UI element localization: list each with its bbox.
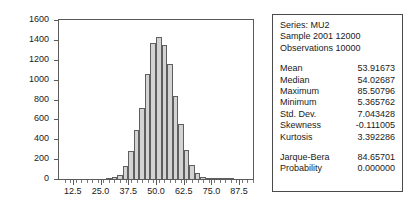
- x-axis-minor-tick: [148, 180, 149, 183]
- x-axis-tick-label: 62.5: [175, 186, 193, 196]
- x-axis-minor-tick: [242, 180, 243, 183]
- x-axis-minor-tick: [164, 180, 165, 183]
- stat-label: Median: [280, 75, 310, 86]
- stat-value: 5.365762: [357, 97, 395, 108]
- x-axis-minor-tick: [181, 180, 182, 183]
- x-axis-minor-tick: [159, 180, 160, 183]
- x-axis-minor-tick: [65, 180, 66, 183]
- x-axis-minor-tick: [120, 180, 121, 183]
- x-axis-minor-tick: [214, 180, 215, 183]
- x-axis-major-tick: [73, 180, 74, 185]
- stat-value: 53.91673: [357, 63, 395, 74]
- x-axis-minor-tick: [114, 180, 115, 183]
- x-axis-minor-tick: [209, 180, 210, 183]
- stats-spacer-two: [280, 143, 395, 152]
- stat-row: Maximum85.50796: [280, 86, 395, 97]
- x-axis-minor-tick: [137, 180, 138, 183]
- x-axis-minor-tick: [109, 180, 110, 183]
- stat-row: Mean53.91673: [280, 63, 395, 74]
- x-axis-minor-tick: [126, 180, 127, 183]
- x-axis-minor-tick: [253, 180, 254, 183]
- stat-label: Std. Dev.: [280, 109, 316, 120]
- x-axis-tick-label: 87.5: [230, 186, 248, 196]
- histogram-figure: 02004006008001000120014001600 12.525.037…: [0, 0, 410, 207]
- stat-row: Minimum5.365762: [280, 97, 395, 108]
- x-axis-minor-tick: [70, 180, 71, 183]
- stat-row: Std. Dev.7.043428: [280, 109, 395, 120]
- stat-label: Minimum: [280, 97, 317, 108]
- stat-value: 0.000000: [357, 163, 395, 174]
- observations-label: Observations 10000: [280, 43, 395, 54]
- x-axis: 12.525.037.550.062.575.087.5: [0, 0, 262, 207]
- stat-label: Kurtosis: [280, 132, 313, 143]
- x-axis-minor-tick: [175, 180, 176, 183]
- x-axis-major-tick: [239, 180, 240, 185]
- stat-test-row: Probability0.000000: [280, 163, 395, 174]
- x-axis-minor-tick: [192, 180, 193, 183]
- x-axis-minor-tick: [92, 180, 93, 183]
- stat-label: Skewness: [280, 120, 321, 131]
- x-axis-major-tick: [101, 180, 102, 185]
- x-axis-major-tick: [156, 180, 157, 185]
- x-axis-minor-tick: [87, 180, 88, 183]
- x-axis-minor-tick: [76, 180, 77, 183]
- normality-test-list: Jarque-Bera84.65701Probability0.000000: [280, 152, 395, 175]
- x-axis-minor-tick: [170, 180, 171, 183]
- stat-value: -0.111005: [356, 120, 395, 131]
- stat-row: Median54.02687: [280, 75, 395, 86]
- x-axis-minor-tick: [225, 180, 226, 183]
- stat-row: Skewness-0.111005: [280, 120, 395, 131]
- x-axis-minor-tick: [220, 180, 221, 183]
- chart-area: 02004006008001000120014001600 12.525.037…: [0, 0, 262, 207]
- x-axis-tick-label: 12.5: [64, 186, 82, 196]
- stat-value: 85.50796: [357, 86, 395, 97]
- x-axis-tick-label: 25.0: [92, 186, 110, 196]
- stat-label: Mean: [280, 63, 303, 74]
- x-axis-minor-tick: [186, 180, 187, 183]
- series-label: Series: MU2: [280, 20, 395, 31]
- sample-label: Sample 2001 12000: [280, 31, 395, 42]
- x-axis-minor-tick: [153, 180, 154, 183]
- stat-value: 84.65701: [357, 152, 395, 163]
- stat-test-row: Jarque-Bera84.65701: [280, 152, 395, 163]
- x-axis-major-tick: [211, 180, 212, 185]
- x-axis-minor-tick: [203, 180, 204, 183]
- x-axis-minor-tick: [247, 180, 248, 183]
- statistics-panel: Series: MU2 Sample 2001 12000 Observatio…: [272, 14, 403, 192]
- stat-value: 54.02687: [357, 75, 395, 86]
- stat-label: Probability: [280, 163, 322, 174]
- stat-value: 7.043428: [357, 109, 395, 120]
- descriptive-stats-list: Mean53.91673Median54.02687Maximum85.5079…: [280, 63, 395, 143]
- stat-value: 3.392286: [357, 132, 395, 143]
- x-axis-major-tick: [128, 180, 129, 185]
- stat-row: Kurtosis3.392286: [280, 132, 395, 143]
- x-axis-minor-tick: [81, 180, 82, 183]
- x-axis-minor-tick: [198, 180, 199, 183]
- x-axis-minor-tick: [236, 180, 237, 183]
- x-axis-minor-tick: [103, 180, 104, 183]
- stat-label: Maximum: [280, 86, 319, 97]
- stats-spacer: [280, 54, 395, 63]
- x-axis-minor-tick: [131, 180, 132, 183]
- x-axis-tick-label: 75.0: [203, 186, 221, 196]
- x-axis-major-tick: [184, 180, 185, 185]
- x-axis-minor-tick: [98, 180, 99, 183]
- x-axis-tick-label: 37.5: [120, 186, 138, 196]
- stat-label: Jarque-Bera: [280, 152, 330, 163]
- x-axis-tick-label: 50.0: [147, 186, 165, 196]
- x-axis-minor-tick: [231, 180, 232, 183]
- x-axis-minor-tick: [142, 180, 143, 183]
